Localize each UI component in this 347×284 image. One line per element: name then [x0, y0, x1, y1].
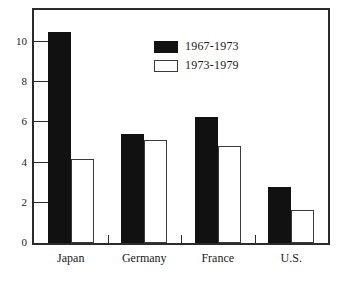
- bar-chart: 1967-1973 1973-1979 0246810 JapanGermany…: [0, 0, 347, 284]
- x-axis-separator-tick: [255, 235, 256, 243]
- bar: [121, 134, 144, 243]
- x-axis-separator-tick: [181, 235, 182, 243]
- y-axis-tick-label: 8: [0, 76, 27, 87]
- x-axis-category-label: Germany: [108, 251, 182, 265]
- legend-label: 1973-1979: [185, 59, 239, 72]
- bar: [144, 140, 167, 243]
- bar: [268, 187, 291, 243]
- y-axis-tick-label: 2: [0, 197, 27, 208]
- legend-label: 1967-1973: [185, 40, 239, 53]
- bar: [218, 146, 241, 243]
- legend-item-1973-1979: 1973-1979: [154, 56, 239, 75]
- x-axis-separator-tick: [108, 235, 109, 243]
- filled-black-swatch: [154, 41, 178, 53]
- chart-legend: 1967-1973 1973-1979: [154, 37, 239, 75]
- bar: [71, 159, 94, 243]
- legend-item-1967-1973: 1967-1973: [154, 37, 239, 56]
- y-axis-tick-label: 10: [0, 36, 27, 47]
- x-axis-category-label: Japan: [34, 251, 108, 265]
- y-axis-tick-label: 0: [0, 237, 27, 248]
- y-axis-tick-label: 6: [0, 116, 27, 127]
- x-axis-category-label: U.S.: [255, 251, 329, 265]
- bar: [195, 117, 218, 243]
- plot-area: 1967-1973 1973-1979: [32, 8, 330, 245]
- y-axis-tick-label: 4: [0, 157, 27, 168]
- bar: [48, 32, 71, 243]
- bar: [291, 210, 314, 243]
- hollow-white-swatch: [154, 60, 178, 72]
- x-axis-category-label: France: [181, 251, 255, 265]
